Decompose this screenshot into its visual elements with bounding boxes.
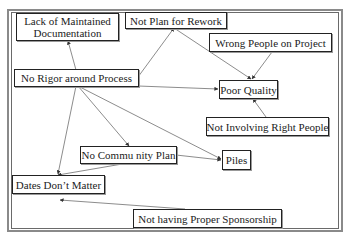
edge-wrong-people-to-poor-quality (252, 52, 272, 79)
node-label: Piles (226, 154, 247, 166)
node-label-line2: Documentation (34, 27, 102, 39)
edge-no-rigor-to-no-community-plan (78, 86, 129, 146)
node-label: Not having Proper Sponsorship (138, 213, 276, 225)
node-not-involving-right-people: Not Involving Right People (206, 117, 329, 136)
edge-no-rigor-to-poor-quality (138, 86, 218, 89)
node-label: No Commu nity Plan (82, 149, 176, 161)
node-wrong-people-on-project: Wrong People on Project (209, 33, 332, 52)
node-piles: Piles (222, 150, 251, 170)
edge-no-rigor-to-dates-dont-matter (58, 86, 76, 174)
node-label: Not Plan for Rework (130, 15, 222, 27)
edge-no-rigor-to-not-plan-rework (138, 28, 174, 77)
node-dates-dont-matter: Dates Don’t Matter (12, 175, 105, 194)
node-label: Dates Don’t Matter (16, 179, 101, 191)
node-no-rigor-around-process: No Rigor around Process (14, 69, 139, 87)
node-not-having-proper-sponsorship: Not having Proper Sponsorship (133, 209, 282, 228)
node-label: No Rigor around Process (21, 72, 132, 84)
edge-not-involving-to-poor-quality (253, 99, 266, 117)
node-label: Poor Quality (220, 84, 277, 96)
node-lack-of-maintained-documentation: Lack of Maintained Documentation (16, 13, 119, 41)
node-label: Wrong People on Project (215, 37, 325, 49)
edge-no-sponsorship-to-dates-dont-matter (60, 200, 185, 209)
edge-no-community-plan-to-dates-dont-matter (58, 163, 128, 175)
node-label-line1: Lack of Maintained (24, 15, 111, 27)
node-not-plan-for-rework: Not Plan for Rework (125, 12, 227, 29)
node-no-community-plan: No Commu nity Plan (80, 146, 177, 164)
edge-no-rigor-to-lack-doc (68, 41, 76, 70)
node-poor-quality: Poor Quality (219, 80, 278, 99)
node-label: Not Involving Right People (207, 121, 329, 133)
